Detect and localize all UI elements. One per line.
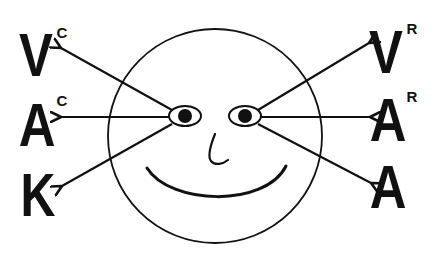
label-a-left: A bbox=[19, 90, 56, 159]
right-labels: V R A R A bbox=[369, 17, 418, 221]
superscript-c-visual: C bbox=[57, 24, 68, 41]
arrow-to-visual-constructed bbox=[61, 48, 172, 110]
right-pupil bbox=[238, 109, 252, 123]
left-eye bbox=[169, 106, 201, 126]
arrow-to-visual-remembered bbox=[258, 43, 369, 110]
left-eye-arrows bbox=[61, 48, 172, 186]
right-eye bbox=[229, 106, 261, 126]
label-k-left: K bbox=[21, 160, 56, 229]
label-v-left: V bbox=[19, 20, 53, 89]
superscript-r-auditory: R bbox=[407, 88, 418, 105]
label-v-right: V bbox=[369, 17, 403, 86]
left-labels: V C A C K bbox=[19, 20, 68, 229]
right-eye-arrows bbox=[258, 43, 371, 183]
smile bbox=[147, 166, 286, 197]
superscript-c-auditory: C bbox=[57, 92, 68, 109]
left-pupil bbox=[178, 109, 192, 123]
vak-eye-accessing-diagram: V C A C K V R A R A bbox=[0, 0, 440, 269]
superscript-r-visual: R bbox=[407, 20, 418, 37]
nose bbox=[209, 134, 228, 164]
label-a-bottom-right: A bbox=[370, 152, 407, 221]
label-a-right: A bbox=[370, 85, 407, 154]
